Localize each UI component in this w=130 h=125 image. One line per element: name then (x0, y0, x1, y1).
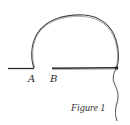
loop-arc (32, 15, 119, 68)
label-b: B (50, 74, 57, 84)
figure-caption: Figure 1 (71, 103, 105, 113)
wavy-tail (113, 68, 118, 121)
figure-1-drawing (0, 0, 130, 125)
b-horizontal-line (52, 68, 117, 69)
label-a: A (28, 74, 35, 84)
